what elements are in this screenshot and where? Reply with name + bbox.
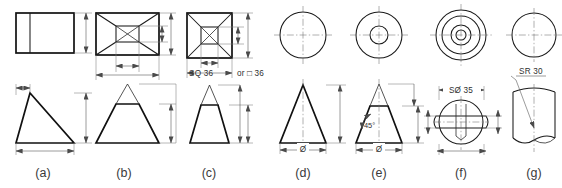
panel-b-top-view (96, 13, 159, 55)
panel-f: SØ 35 (f) (424, 4, 502, 180)
dim-label-sq36: SQ 36 (189, 69, 213, 78)
panel-c-top-view (187, 13, 232, 58)
panel-f-top-view (430, 4, 492, 66)
panel-d-front-view (280, 79, 326, 152)
panel-caption-d: (d) (295, 166, 310, 180)
panel-e: Ø 45° (e) (350, 6, 424, 180)
dim-label-spherical-diameter: SØ 35 (449, 86, 473, 95)
dim-label-spherical-radius: SR 30 (519, 67, 543, 76)
panel-b-dimensions (96, 13, 176, 143)
panel-c-dimensions (187, 13, 253, 143)
panel-e-top-view (350, 6, 408, 64)
panel-c-notes: SQ 36 or □ 36 (189, 69, 264, 78)
panel-d-top-view (274, 6, 332, 64)
panel-d: Ø (d) (274, 6, 346, 180)
panel-b-front-view (96, 84, 159, 143)
panel-g: SR 30 (g) (506, 8, 562, 180)
panel-a: (a) (16, 13, 92, 180)
panel-c: SQ 36 or □ 36 (c) (187, 13, 264, 180)
dim-label-or: or (237, 69, 245, 78)
panel-g-dimensions: SR 30 (511, 67, 546, 128)
panel-a-front-view (16, 93, 74, 143)
panel-caption-a: (a) (35, 166, 50, 180)
dim-label-diameter-e: Ø (376, 145, 383, 154)
panel-a-top-view (16, 13, 74, 53)
dim-label-diameter-d: Ø (300, 145, 307, 154)
panel-f-front-view (434, 96, 488, 150)
panel-caption-b: (b) (116, 166, 131, 180)
panel-caption-c: (c) (202, 166, 217, 180)
panel-c-front-view (190, 85, 229, 143)
panel-a-dimensions (16, 13, 92, 155)
panel-e-front-view (356, 79, 402, 152)
dim-label-angle-45: 45° (364, 121, 375, 130)
panel-caption-f: (f) (455, 166, 467, 180)
panel-caption-e: (e) (371, 166, 386, 180)
drawing-canvas: (a) (0, 0, 562, 188)
panel-b: (b) (96, 13, 176, 180)
panel-g-top-view (506, 8, 562, 62)
technical-drawing-sheet: (a) (0, 0, 562, 188)
panel-g-front-view (513, 84, 555, 152)
dim-label-square-symbol: □ 36 (247, 69, 264, 78)
panel-caption-g: (g) (526, 166, 541, 180)
